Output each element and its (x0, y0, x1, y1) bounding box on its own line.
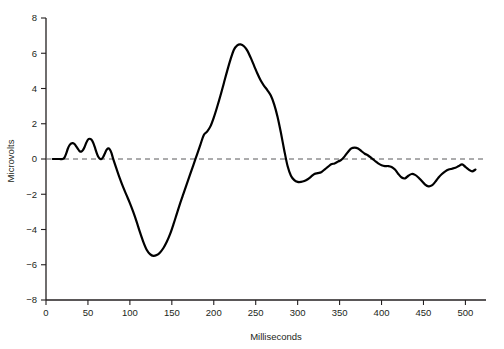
x-tick-label: 500 (457, 307, 473, 318)
x-tick-label: 50 (83, 307, 94, 318)
y-tick-label: 2 (32, 118, 37, 129)
chart-canvas: −8−6−4−202468 05010015020025030035040045… (0, 0, 504, 349)
y-tick-label: 0 (32, 153, 37, 164)
y-tick-label: −2 (26, 189, 37, 200)
x-tick-label: 150 (164, 307, 180, 318)
x-axis-title: Milliseconds (250, 331, 302, 342)
erp-waveform-line (53, 44, 476, 256)
y-tick-label: 8 (32, 12, 37, 23)
x-tick-label: 250 (248, 307, 264, 318)
x-tick-label: 350 (332, 307, 348, 318)
x-tick-label: 450 (416, 307, 432, 318)
x-tick-label: 0 (43, 307, 48, 318)
y-tick-label: −6 (26, 259, 37, 270)
erp-waveform-figure: −8−6−4−202468 05010015020025030035040045… (0, 0, 504, 349)
y-axis: −8−6−4−202468 (26, 12, 46, 305)
x-tick-label: 400 (374, 307, 390, 318)
y-tick-label: 6 (32, 48, 37, 59)
x-tick-label: 200 (206, 307, 222, 318)
y-axis-title: Microvolts (5, 139, 16, 182)
data-trace-group (53, 44, 476, 256)
y-tick-label: 4 (32, 83, 37, 94)
y-tick-label: −8 (26, 294, 37, 305)
x-tick-label: 300 (290, 307, 306, 318)
x-axis: 050100150200250300350400450500 (43, 300, 486, 318)
x-tick-label: 100 (122, 307, 138, 318)
y-tick-label: −4 (26, 224, 37, 235)
